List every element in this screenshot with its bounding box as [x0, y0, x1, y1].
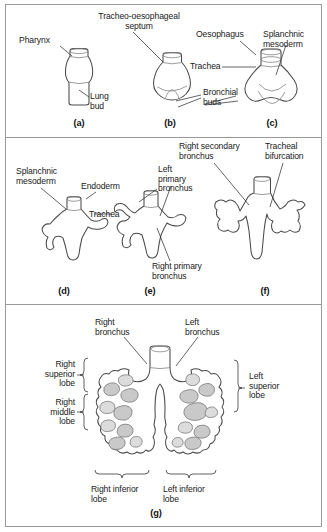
label-tracheo-oesophageal-septum-b: Tracheo-oesophageal septum	[79, 12, 199, 31]
label-bronchial-buds-b: Bronchial buds	[203, 88, 238, 107]
label-right-primary-bronchus-e: Right primary bronchus	[152, 262, 202, 281]
label-left-inferior-lobe-g: Left inferior lobe	[163, 485, 205, 504]
label-right-bronchus-g: Right bronchus	[95, 318, 130, 337]
panel-letter-f: (f)	[243, 286, 287, 296]
label-tracheal-bifurcation-f: Tracheal bifurcation	[265, 142, 304, 161]
row-divider-top	[6, 137, 321, 138]
label-lung-bud-a: Lung bud	[90, 92, 109, 111]
label-left-superior-lobe-g: Left superior lobe	[249, 372, 279, 401]
respiratory-development-figure: Pharynx Lung bud (a) Tracheo-oesophageal…	[0, 0, 327, 532]
label-splanchnic-mesoderm-c: Splanchnic mesoderm	[263, 30, 304, 49]
panel-c-drawing	[241, 48, 303, 114]
panel-g-drawing	[85, 345, 235, 475]
label-pharynx-a: Pharynx	[19, 36, 50, 46]
label-left-primary-bronchus-e: Left primary bronchus	[158, 165, 193, 194]
label-trachea-c: Trachea	[190, 62, 221, 72]
panel-letter-c: (c)	[250, 118, 294, 128]
label-oesophagus-c: Oesophagus	[196, 30, 244, 40]
label-splanchnic-mesoderm-d: Splanchnic mesoderm	[16, 167, 57, 186]
panel-letter-e: (e)	[128, 286, 172, 296]
panel-letter-a: (a)	[58, 118, 100, 128]
panel-f-drawing	[212, 176, 312, 288]
label-right-middle-lobe-g: Right middle lobe	[20, 398, 75, 427]
panel-letter-d: (d)	[42, 286, 86, 296]
label-right-superior-lobe-g: Right superior lobe	[20, 360, 75, 389]
label-right-inferior-lobe-g: Right inferior lobe	[91, 485, 138, 504]
label-left-bronchus-g: Left bronchus	[185, 318, 220, 337]
row-divider-bottom	[6, 304, 321, 305]
panel-letter-b: (b)	[148, 118, 192, 128]
panel-letter-g: (g)	[134, 508, 178, 518]
label-right-secondary-bronchus-f: Right secondary bronchus	[179, 142, 240, 161]
